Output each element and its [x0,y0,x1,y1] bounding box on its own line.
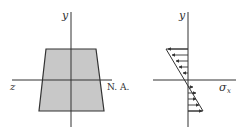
z-axis-label: z [9,81,16,92]
tension-arrows [188,87,202,111]
stress-y-axis-label: y [178,9,186,22]
sigma-x-label: σ [219,81,227,94]
sigma-x-subscript: x [227,87,231,95]
y-axis-label: y [61,9,69,22]
neutral-axis-label: N. A. [107,82,130,92]
beam-stress-diagram: y z N. A. y σ x [0,0,241,134]
cross-section-figure: y z N. A. [9,9,130,127]
stress-distribution-figure: y σ x [153,9,236,127]
